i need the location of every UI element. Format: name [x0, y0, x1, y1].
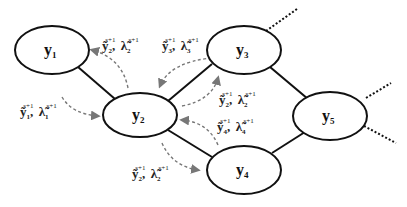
- network-diagram: y1 y2 y3 y4 y5 ỹ2,s+1 λ̃2s+1 ỹ3,s+1 λ̃3s…: [0, 0, 407, 207]
- edge-y1-y2: [78, 67, 115, 99]
- message-arrow-y2-to-y1: [92, 50, 128, 88]
- svg-text:ỹ2,s+1 λ̃2s+1: ỹ2,s+1 λ̃2s+1: [132, 158, 169, 183]
- edge-y5-external-lower: [364, 126, 396, 143]
- message-arrow-y2-to-y3: [182, 78, 218, 106]
- message-label-y2-to-y1: ỹ2,s+1 λ̃2s+1: [102, 30, 139, 55]
- edge-y2-y4: [168, 130, 212, 157]
- edge-y3-y5: [270, 67, 308, 99]
- svg-text:ỹ2,s+1 λ̃2s+1: ỹ2,s+1 λ̃2s+1: [219, 84, 256, 109]
- message-label-y2-to-y3: ỹ2,s+1 λ̃2s+1: [219, 84, 256, 109]
- svg-text:ỹ4,s+1 λ̃4s+1: ỹ4,s+1 λ̃4s+1: [217, 111, 254, 136]
- svg-text:ỹ2,s+1 λ̃2s+1: ỹ2,s+1 λ̃2s+1: [102, 30, 139, 55]
- message-arrow-y3-to-y2: [160, 58, 212, 86]
- node-y3: y3: [207, 26, 281, 74]
- edge-y5-external-upper: [366, 83, 391, 98]
- message-arrow-y1-to-y2: [62, 97, 98, 116]
- message-label-y3-to-y2: ỹ3,s+1 λ̃3s+1: [162, 30, 199, 55]
- svg-text:ỹ1,s+1 λ̃1s+1: ỹ1,s+1 λ̃1s+1: [20, 96, 57, 121]
- node-y2: y2: [103, 93, 177, 137]
- node-y4: y4: [207, 146, 281, 194]
- message-label-y1-to-y2: ỹ1,s+1 λ̃1s+1: [20, 96, 57, 121]
- svg-text:ỹ3,s+1 λ̃3s+1: ỹ3,s+1 λ̃3s+1: [162, 30, 199, 55]
- edge-y4-y5: [272, 132, 305, 153]
- node-y1: y1: [15, 26, 89, 74]
- edge-y3-external: [266, 9, 297, 31]
- message-label-y4-to-y2: ỹ4,s+1 λ̃4s+1: [217, 111, 254, 136]
- message-label-y2-to-y4: ỹ2,s+1 λ̃2s+1: [132, 158, 169, 183]
- node-y5: y5: [293, 92, 367, 140]
